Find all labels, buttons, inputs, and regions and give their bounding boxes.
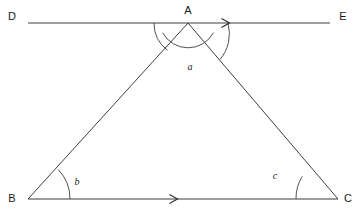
vertex-label-C: C (344, 192, 352, 204)
angle-label-b: b (75, 176, 80, 187)
vertex-label-B: B (8, 192, 15, 204)
angle-label-c: c (273, 170, 278, 181)
side-AB (28, 23, 188, 199)
angle-c-arc (296, 176, 302, 199)
geometry-diagram: A B C D E a b c (0, 0, 360, 215)
geometry-canvas: A B C D E a b c (0, 0, 360, 215)
angle-label-a: a (188, 61, 193, 72)
side-AC (188, 23, 338, 199)
angle-b-arc (58, 170, 70, 200)
vertex-label-D: D (8, 10, 16, 22)
vertex-label-A: A (184, 4, 192, 16)
angle-CAE-arc (220, 23, 230, 60)
vertex-label-E: E (339, 10, 346, 22)
angle-a-arc (163, 33, 214, 48)
